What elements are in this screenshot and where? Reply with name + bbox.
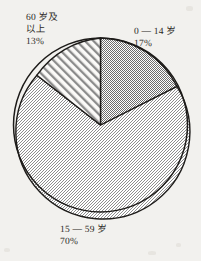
scan-speckle (186, 6, 193, 11)
pie-label-children-percent: 17% (134, 38, 176, 50)
pie-label-working-age: 15 — 59 岁 70% (60, 224, 107, 248)
pie-label-senior: 60 岁及 以上 13% (26, 12, 58, 48)
pie-label-working-age-line1: 15 — 59 岁 (60, 224, 107, 236)
pie-label-senior-line2: 以上 (26, 24, 58, 36)
scan-speckle (4, 248, 10, 252)
pie-label-senior-percent: 13% (26, 36, 58, 48)
pie-label-children-line1: 0 — 14 岁 (134, 26, 176, 38)
pie-label-working-age-percent: 70% (60, 236, 107, 248)
pie-chart-figure: 60 岁及 以上 13% 0 — 14 岁 17% 15 — 59 岁 70% (0, 0, 201, 261)
scan-speckle (148, 251, 156, 255)
scan-speckle (176, 243, 181, 247)
pie-label-children: 0 — 14 岁 17% (134, 26, 176, 50)
pie-label-senior-line1: 60 岁及 (26, 12, 58, 24)
